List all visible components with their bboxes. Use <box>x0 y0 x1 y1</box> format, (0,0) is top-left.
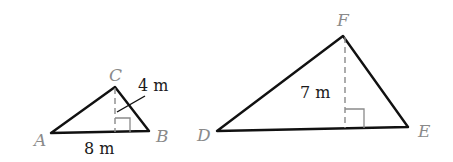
vertex-label-f: F <box>336 10 350 30</box>
triangle-abc-edges <box>51 87 149 133</box>
vertex-label-c: C <box>109 65 122 85</box>
height-label-def: 7 m <box>300 83 330 102</box>
vertex-label-a: A <box>32 130 46 150</box>
triangle-def-right-angle-marker <box>345 109 364 128</box>
triangle-abc-right-angle-marker <box>115 118 130 132</box>
diagram-canvas: A B C 4 m 8 m D E F 7 m <box>0 0 453 162</box>
base-label-abc: 8 m <box>84 139 114 158</box>
vertex-label-d: D <box>196 125 211 145</box>
vertex-label-b: B <box>155 126 169 146</box>
height-label-abc: 4 m <box>138 76 168 95</box>
triangle-def: D E F 7 m <box>196 10 431 145</box>
triangle-abc: A B C 4 m 8 m <box>32 65 169 158</box>
vertex-label-e: E <box>417 121 431 141</box>
